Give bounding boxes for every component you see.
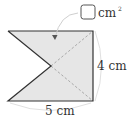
answer-box[interactable]: [81, 5, 95, 19]
answer-unit: cm: [98, 6, 117, 20]
geometry-diagram: cm 2 4 cm 5 cm: [0, 0, 133, 123]
answer-exponent: 2: [118, 5, 122, 12]
width-label: 5 cm: [45, 104, 75, 118]
height-label: 4 cm: [97, 59, 127, 73]
